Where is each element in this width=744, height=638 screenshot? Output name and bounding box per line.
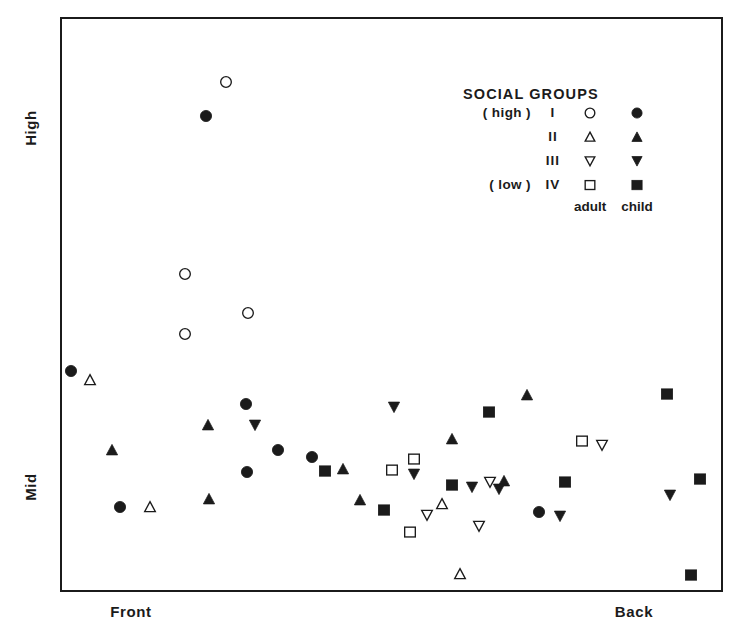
data-point-filled-triangle-down	[388, 401, 400, 413]
data-point-open-triangle-up	[436, 498, 448, 510]
data-point-filled-square	[446, 479, 458, 491]
data-point-filled-triangle-down	[493, 483, 505, 495]
data-point-filled-circle	[241, 466, 253, 478]
y-axis-label-high: High	[22, 110, 39, 146]
data-point-open-triangle-down	[473, 520, 485, 532]
legend-marker-filled-circle	[632, 108, 643, 119]
data-point-open-triangle-down	[596, 439, 608, 451]
scatter-plot-figure: High Mid Front Back SOCIAL GROUPS ( high…	[0, 0, 744, 638]
data-point-open-square	[404, 526, 416, 538]
data-point-filled-circle	[272, 444, 284, 456]
data-point-open-square	[408, 453, 420, 465]
data-point-filled-triangle-up	[354, 494, 366, 506]
legend-row-iv: ( low )IV	[455, 174, 670, 198]
data-point-filled-square	[661, 388, 673, 400]
legend-group-numeral: IV	[540, 177, 566, 192]
data-point-filled-square	[378, 504, 390, 516]
legend-marker-open-circle	[585, 108, 596, 119]
legend-marker-filled-triangle-down	[632, 156, 643, 167]
x-axis-label-back: Back	[615, 603, 653, 620]
data-point-filled-circle	[240, 398, 252, 410]
data-point-open-triangle-up	[454, 568, 466, 580]
data-point-open-square	[576, 435, 588, 447]
data-point-open-triangle-up	[144, 501, 156, 513]
data-point-filled-triangle-down	[408, 468, 420, 480]
data-point-filled-circle	[65, 365, 77, 377]
data-point-filled-square	[483, 406, 495, 418]
legend-marker-filled-square	[632, 180, 643, 191]
data-point-filled-square	[319, 465, 331, 477]
data-point-filled-triangle-up	[202, 419, 214, 431]
data-point-filled-triangle-up	[203, 493, 215, 505]
data-point-filled-triangle-down	[554, 510, 566, 522]
data-point-filled-square	[559, 476, 571, 488]
legend-qualifier: ( low )	[489, 177, 531, 192]
data-point-filled-triangle-down	[664, 489, 676, 501]
legend-adult-label: adult	[574, 199, 606, 214]
legend-column-headers: adult child	[455, 199, 670, 219]
data-point-filled-triangle-up	[337, 463, 349, 475]
data-point-open-triangle-up	[84, 374, 96, 386]
data-point-filled-circle	[114, 501, 126, 513]
legend-marker-open-square	[585, 180, 596, 191]
data-point-open-circle	[220, 76, 232, 88]
data-point-filled-triangle-down	[466, 481, 478, 493]
legend-row-i: ( high )I	[455, 102, 670, 126]
y-axis-label-mid: Mid	[22, 473, 39, 501]
data-point-filled-circle	[306, 451, 318, 463]
legend-row-iii: III	[455, 150, 670, 174]
legend-marker-open-triangle-down	[585, 156, 596, 167]
data-point-open-triangle-down	[421, 509, 433, 521]
data-point-open-circle	[179, 328, 191, 340]
x-axis-label-front: Front	[110, 603, 151, 620]
data-point-filled-circle	[200, 110, 212, 122]
legend-group-numeral: III	[540, 153, 566, 168]
data-point-filled-triangle-up	[106, 444, 118, 456]
data-point-open-circle	[179, 268, 191, 280]
legend-child-label: child	[621, 199, 653, 214]
data-point-open-square	[386, 464, 398, 476]
legend: SOCIAL GROUPS ( high )IIIIII( low )IV ad…	[455, 86, 670, 219]
legend-row-ii: II	[455, 126, 670, 150]
data-point-filled-triangle-up	[521, 389, 533, 401]
data-point-filled-triangle-up	[446, 433, 458, 445]
legend-rows: ( high )IIIIII( low )IV	[455, 102, 670, 198]
data-point-filled-circle	[533, 506, 545, 518]
legend-marker-filled-triangle-up	[632, 132, 643, 143]
legend-group-numeral: II	[540, 129, 566, 144]
data-point-filled-square	[694, 473, 706, 485]
legend-marker-open-triangle-up	[585, 132, 596, 143]
legend-group-numeral: I	[540, 105, 566, 120]
legend-qualifier: ( high )	[483, 105, 531, 120]
data-point-open-circle	[242, 307, 254, 319]
data-point-filled-square	[685, 569, 697, 581]
legend-title: SOCIAL GROUPS	[463, 86, 670, 102]
data-point-filled-triangle-down	[249, 419, 261, 431]
